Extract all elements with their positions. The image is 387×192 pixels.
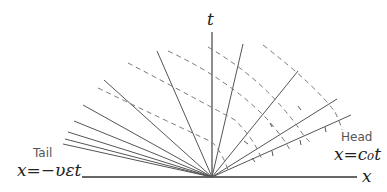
tail-label: Tail — [33, 146, 52, 160]
tail-equation: x=−υεt — [17, 160, 81, 180]
left-rays — [63, 51, 212, 177]
x-axis-label: x — [362, 166, 372, 186]
head-label: Head — [341, 130, 372, 144]
head-equation: x=c₀t — [334, 144, 381, 164]
t-axis-label: t — [207, 9, 214, 29]
wavefront-ticks — [244, 106, 326, 162]
right-rays — [212, 44, 351, 177]
